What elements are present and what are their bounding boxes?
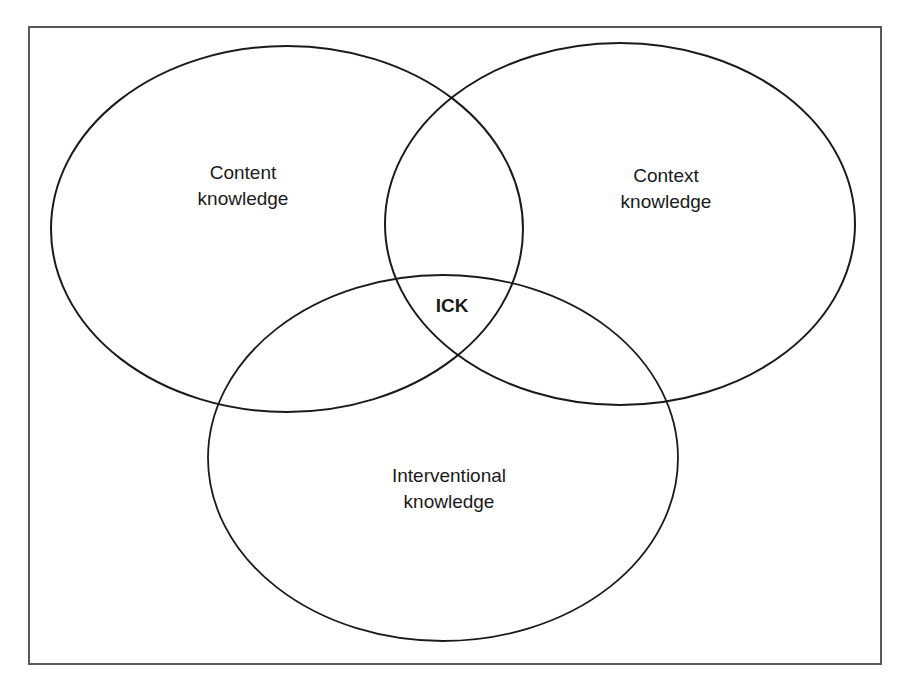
venn-diagram [0, 0, 907, 686]
interventional-label-line1: Interventional [392, 463, 506, 489]
context-knowledge-label: Context knowledge [621, 163, 712, 215]
interventional-label-line2: knowledge [392, 489, 506, 515]
ick-intersection-label: ICK [436, 293, 469, 319]
content-knowledge-ellipse [51, 46, 523, 412]
interventional-knowledge-label: Interventional knowledge [392, 463, 506, 515]
content-label-line1: Content [198, 160, 289, 186]
content-label-line2: knowledge [198, 186, 289, 212]
context-label-line1: Context [621, 163, 712, 189]
interventional-knowledge-ellipse [208, 275, 678, 641]
context-label-line2: knowledge [621, 189, 712, 215]
context-knowledge-ellipse [385, 43, 855, 405]
content-knowledge-label: Content knowledge [198, 160, 289, 212]
